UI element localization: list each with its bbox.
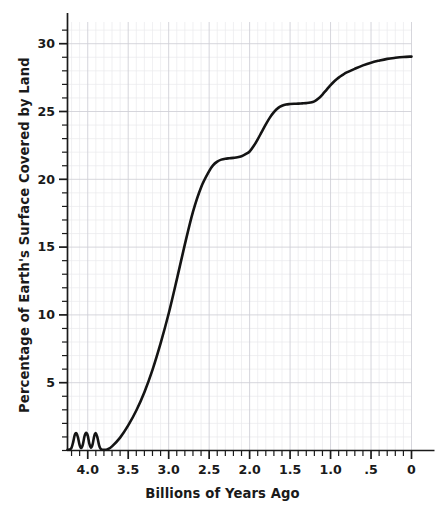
chart-figure: Percentage of Earth's Surface Covered by…	[0, 0, 445, 509]
y-tick-label: 5	[46, 375, 55, 390]
y-tick-label: 15	[37, 239, 55, 254]
x-tick-label: 2.0	[238, 462, 261, 477]
data-line	[68, 57, 412, 450]
axis-tick-labels: 510152025304.03.53.02.52.01.51.0.50	[37, 36, 416, 476]
x-tick-label: 2.5	[198, 462, 220, 477]
plot-area: 510152025304.03.53.02.52.01.51.0.50	[0, 0, 445, 509]
y-tick-label: 30	[37, 36, 55, 51]
x-tick-label: 3.5	[117, 462, 139, 477]
grid-major	[68, 22, 412, 451]
grid-minor	[68, 22, 412, 451]
x-tick-label: 4.0	[77, 462, 100, 477]
x-tick-label: 3.0	[158, 462, 181, 477]
x-tick-label: 0	[407, 462, 416, 477]
y-tick-label: 20	[37, 172, 55, 187]
y-tick-label: 25	[37, 104, 55, 119]
x-tick-label: 1.5	[279, 462, 301, 477]
x-tick-label: 1.0	[319, 462, 342, 477]
x-tick-label: .5	[364, 462, 378, 477]
data-line-series	[68, 57, 412, 450]
y-tick-label: 10	[37, 307, 55, 322]
